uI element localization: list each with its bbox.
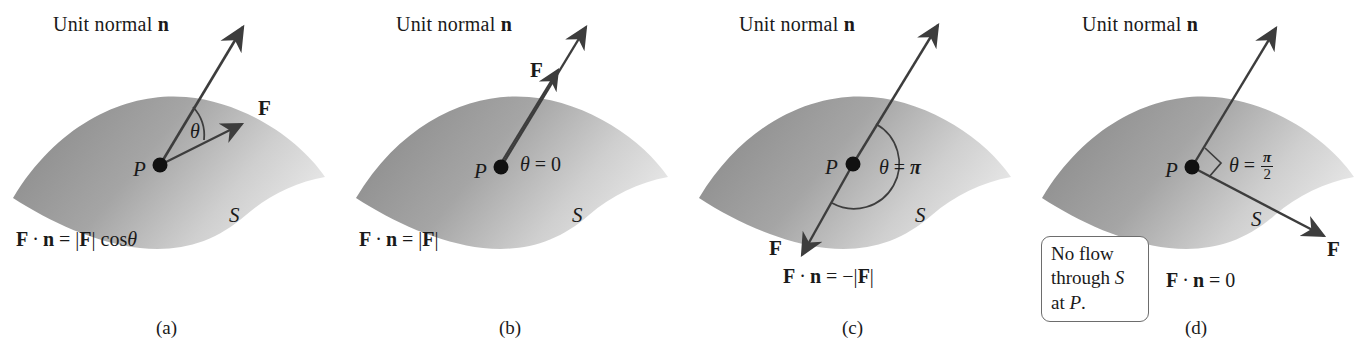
point-p-a <box>153 158 168 173</box>
no-flow-callout: No flow through S at P. <box>1041 236 1149 322</box>
panel-c-graphic <box>686 0 1029 350</box>
point-label-c: P <box>825 157 838 178</box>
caption-d: (d) <box>1185 318 1207 337</box>
force-label-d: F <box>1327 239 1340 260</box>
surface-label-a: S <box>229 205 240 226</box>
normal-title-b: Unit normal n <box>396 14 512 34</box>
normal-title-c: Unit normal n <box>739 14 855 34</box>
angle-value-d: θ = π 2 <box>1229 150 1274 183</box>
angle-value-b: θ = 0 <box>520 154 561 174</box>
point-label-a: P <box>133 159 146 180</box>
surface-patch <box>13 96 325 248</box>
surface-label-d: S <box>1251 209 1262 230</box>
callout-line-1: No flow <box>1051 242 1139 266</box>
normal-title-d: Unit normal n <box>1082 14 1198 34</box>
surface-label-c: S <box>915 205 926 226</box>
point-label-b: P <box>474 161 487 182</box>
force-label-b: F <box>530 60 543 81</box>
surface-patch <box>699 96 1011 248</box>
formula-c: F · n = −|F| <box>783 266 874 286</box>
panel-d: Unit normal n P θ = π 2 S F No flow thro… <box>1029 0 1371 350</box>
point-p-c <box>846 157 861 172</box>
caption-b: (b) <box>499 318 521 337</box>
normal-title-a: Unit normal n <box>53 14 169 34</box>
callout-line-2: through S <box>1051 266 1139 290</box>
formula-d: F · n = 0 <box>1166 270 1235 290</box>
point-p-b <box>494 160 509 175</box>
flux-diagram-figure: Unit normal n F θ P S F · n = |F| cosθ (… <box>0 0 1371 350</box>
force-label-c: F <box>769 238 782 259</box>
panel-a-graphic <box>0 0 343 350</box>
angle-value-c: θ = π <box>879 157 921 177</box>
force-label-a: F <box>258 98 271 119</box>
panel-b: Unit normal n F P θ = 0 S F · n = |F| (b… <box>343 0 686 350</box>
panel-b-graphic <box>343 0 686 350</box>
caption-a: (a) <box>156 318 177 337</box>
point-label-d: P <box>1165 160 1178 181</box>
caption-c: (c) <box>842 318 863 337</box>
formula-a: F · n = |F| cosθ <box>16 229 137 249</box>
point-p-d <box>1185 160 1200 175</box>
surface-label-b: S <box>572 205 583 226</box>
pi-over-two-fraction: π 2 <box>1261 150 1273 183</box>
panel-a: Unit normal n F θ P S F · n = |F| cosθ (… <box>0 0 343 350</box>
angle-label-a: θ <box>190 121 200 141</box>
surface-patch <box>356 96 668 248</box>
formula-b: F · n = |F| <box>359 229 439 249</box>
panel-c: Unit normal n P θ = π F S F · n = −|F| (… <box>686 0 1029 350</box>
callout-line-3: at P. <box>1051 291 1139 315</box>
